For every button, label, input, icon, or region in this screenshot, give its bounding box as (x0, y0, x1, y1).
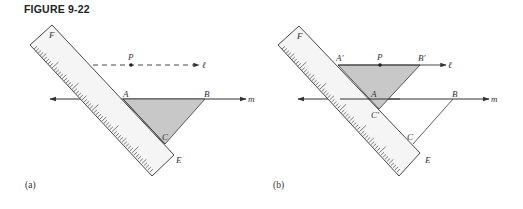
label-e: E (424, 155, 431, 165)
point-p (129, 63, 133, 67)
point-p (378, 63, 382, 67)
triangle-abc-outline (413, 99, 453, 144)
label-a: A (122, 89, 129, 99)
label-e: E (175, 155, 182, 165)
label-a: A (370, 89, 377, 99)
label-m: m (248, 94, 255, 104)
label-b-prime: B′ (418, 53, 426, 63)
figure-canvas: F P ℓ A B m C E (a) F A′ P B′ ℓ A B m (0, 0, 523, 209)
label-l: ℓ (448, 60, 452, 70)
label-a-prime: A′ (335, 53, 344, 63)
label-c-prime: C′ (371, 110, 380, 120)
label-b: B (452, 89, 458, 99)
label-b: B (204, 89, 210, 99)
panel-b: F A′ P B′ ℓ A B m C′ C E (b) (273, 26, 498, 191)
caption-a: (a) (25, 180, 36, 191)
label-l: ℓ (202, 60, 206, 70)
caption-b: (b) (273, 180, 284, 191)
label-c: C (162, 132, 169, 142)
label-c: C (407, 132, 414, 142)
ruler (278, 26, 420, 176)
label-p: P (127, 52, 134, 62)
label-p: P (376, 52, 383, 62)
label-m: m (491, 94, 498, 104)
label-f: F (48, 30, 55, 40)
panel-a: F P ℓ A B m C E (a) (25, 25, 255, 191)
label-f: F (296, 31, 303, 41)
